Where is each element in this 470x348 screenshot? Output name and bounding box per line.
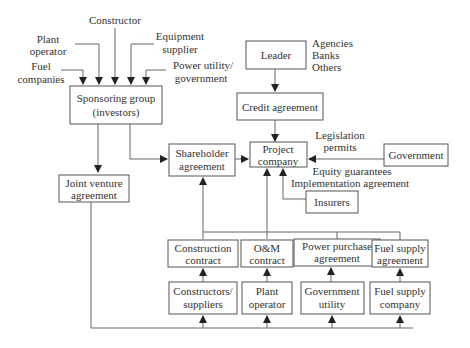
joint-venture-line2: agreement <box>71 189 117 201</box>
gov-label-implementation: Implementation agreement <box>291 177 409 189</box>
construction-contract-line2: contract <box>185 254 220 266</box>
leader-label: Leader <box>261 49 292 61</box>
om-contract-line2: contract <box>249 254 284 266</box>
gov-label-equity: Equity guarantees <box>312 165 391 177</box>
arrow-equipment-supplier <box>131 44 154 84</box>
label-equipment-supplier-1: Equipment <box>156 30 204 42</box>
fsa-line1: Fuel supply <box>374 242 426 254</box>
label-fuel-companies-2: companies <box>17 73 64 85</box>
om-contract-line1: O&M <box>254 242 281 254</box>
project-company-line2: company <box>258 155 299 167</box>
gov-utility-line2: utility <box>319 298 346 310</box>
credit-agreement-label: Credit agreement <box>242 101 318 113</box>
plant-operator-line1: Plant <box>256 285 279 297</box>
plant-operator-line2: operator <box>249 298 286 310</box>
label-power-utility-2: government <box>175 72 228 84</box>
label-plant-operator-2: operator <box>30 45 67 57</box>
arrow-sponsor-to-shareholder <box>130 124 167 159</box>
label-power-utility-1: Power utility/ <box>173 59 234 71</box>
label-constructor: Constructor <box>89 14 141 26</box>
arrow-power-utility <box>146 70 166 84</box>
construction-contract-line1: Construction <box>175 242 232 254</box>
label-fuel-companies-1: Fuel <box>31 60 51 72</box>
shareholder-line2: agreement <box>179 160 225 172</box>
shareholder-line1: Shareholder <box>175 147 228 159</box>
fuel-company-line1: Fuel supply <box>374 285 426 297</box>
ppa-line1: Power purchase <box>302 240 372 252</box>
gov-label-legislation: Legislation <box>315 129 365 141</box>
constructors-line1: Constructors/ <box>173 285 233 297</box>
fuel-company-line2: company <box>380 298 421 310</box>
arrow-plant-operator <box>75 44 99 84</box>
label-equipment-supplier-2: supplier <box>162 43 198 55</box>
gov-label-permits: permits <box>324 141 357 153</box>
government-label: Government <box>389 149 444 161</box>
insurers-label: Insurers <box>314 196 349 208</box>
sponsoring-group-line2: (investors) <box>92 106 139 119</box>
gov-utility-line1: Government <box>305 285 360 297</box>
constructors-line2: suppliers <box>183 298 223 310</box>
fsa-line2: agreement <box>377 254 423 266</box>
lender-agencies: Agencies <box>312 37 353 49</box>
sponsoring-group-line1: Sponsoring group <box>77 92 156 104</box>
joint-venture-line1: Joint venture <box>65 177 122 189</box>
ppa-line2: agreement <box>314 252 360 264</box>
project-finance-diagram: Constructor Plant operator Equipment sup… <box>0 0 470 348</box>
label-plant-operator-1: Plant <box>37 33 60 45</box>
lender-others: Others <box>312 61 341 73</box>
project-company-line1: Project <box>262 143 293 155</box>
lender-banks: Banks <box>312 49 340 61</box>
